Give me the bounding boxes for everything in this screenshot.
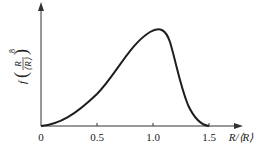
- y-label-func: f: [16, 79, 28, 84]
- x-tick-label-05: 0.5: [90, 131, 104, 143]
- y-label-den: ⟨R⟩: [23, 57, 33, 71]
- y-axis-arrow-icon: [38, 2, 44, 11]
- chart: 0 0.5 1.0 1.5 R/⟨R⟩ f ( R ⟨R⟩ ) 8: [0, 0, 266, 153]
- x-axis-arrow-icon: [234, 123, 243, 129]
- x-tick-label-0: 0: [38, 131, 44, 143]
- y-label-paren-open: (: [11, 72, 32, 78]
- x-tick-label-10: 1.0: [146, 131, 160, 143]
- x-axis-label: R/⟨R⟩: [228, 131, 254, 143]
- x-tick-label-15: 1.5: [202, 131, 216, 143]
- distribution-curve: [41, 29, 209, 126]
- y-axis-label: f ( R ⟨R⟩ ) 8: [8, 49, 33, 84]
- y-label-num: R: [13, 61, 23, 68]
- axes: [38, 2, 243, 129]
- y-label-mark: 8: [8, 49, 17, 53]
